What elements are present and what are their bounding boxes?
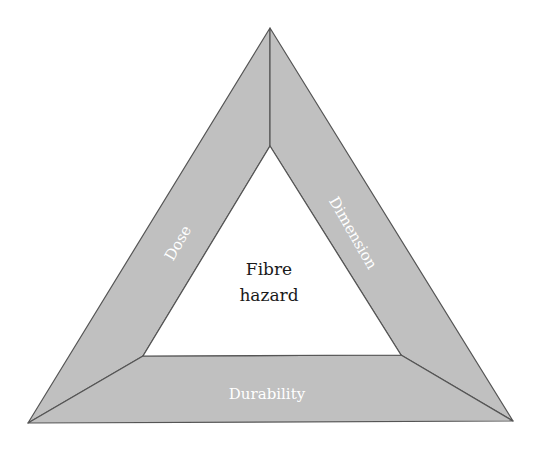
- fibre-hazard-triangle-diagram: Dose Dimension Durability Fibre hazard: [0, 0, 543, 450]
- center-label-line2: hazard: [239, 285, 298, 305]
- center-label-line1: Fibre: [246, 259, 292, 279]
- durability-label: Durability: [229, 385, 306, 403]
